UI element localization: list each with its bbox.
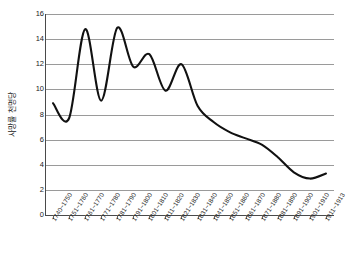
y-tick-label-6: 6 — [20, 136, 44, 144]
y-tick-label-12: 12 — [20, 60, 44, 68]
y-axis-line — [45, 14, 46, 216]
gridline-y-6 — [45, 140, 334, 141]
gridline-y-4 — [45, 165, 334, 166]
y-tick-label-4: 4 — [20, 161, 44, 169]
gridline-y-16 — [45, 14, 334, 15]
y-tick-label-14: 14 — [20, 35, 44, 43]
x-axis-tick-labels: 1740~17501751~17601761~17701771~17801781… — [0, 219, 341, 275]
y-tick-label-8: 8 — [20, 111, 44, 119]
gridline-y-8 — [45, 115, 334, 116]
y-axis-title: 사망률 천명당 — [4, 14, 18, 215]
gridline-y-12 — [45, 64, 334, 65]
y-tick-label-10: 10 — [20, 85, 44, 93]
gridlines — [45, 14, 334, 215]
chart-title — [0, 0, 341, 5]
gridline-y-14 — [45, 39, 334, 40]
y-tick-label-0: 0 — [20, 211, 44, 219]
y-tick-label-16: 16 — [20, 10, 44, 18]
gridline-y-2 — [45, 190, 334, 191]
y-tick-label-2: 2 — [20, 186, 44, 194]
gridline-y-10 — [45, 89, 334, 90]
